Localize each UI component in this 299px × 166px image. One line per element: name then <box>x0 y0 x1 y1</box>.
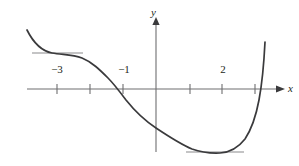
x-axis-label: x <box>288 83 293 94</box>
y-axis-label: y <box>151 7 156 18</box>
x-axis-arrowhead <box>276 85 285 92</box>
tick-label-neg3: −3 <box>47 64 67 75</box>
y-axis-arrowhead <box>152 17 159 25</box>
tick-label-2: 2 <box>213 64 233 75</box>
graph-figure: y x −3 −1 2 <box>0 0 299 166</box>
tick-label-neg1: −1 <box>114 64 134 75</box>
curve-path <box>27 30 265 153</box>
graph-canvas <box>0 0 299 166</box>
